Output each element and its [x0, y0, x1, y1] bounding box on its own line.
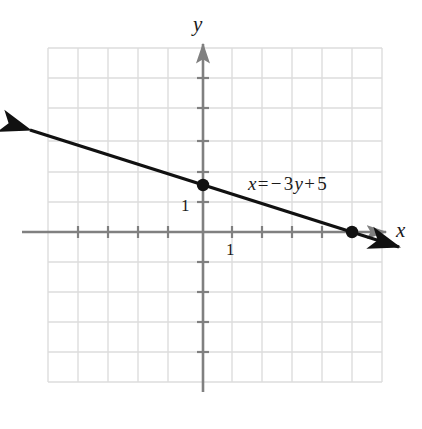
y-axis-label: y	[193, 12, 202, 37]
point-y-intercept	[197, 179, 209, 191]
equation-coefficient: 3	[283, 173, 295, 194]
x-axis-tick-label: 1	[226, 240, 235, 260]
plotted-line	[30, 130, 399, 247]
equation-constant: 5	[316, 173, 328, 194]
equation-lhs-variable: x	[248, 173, 257, 194]
grid-lines	[48, 48, 382, 382]
equation-plus-sign: +	[303, 173, 316, 194]
coordinate-plane	[0, 0, 422, 429]
equation-equals: =	[257, 173, 270, 194]
equation-label: x=−3y+5	[248, 173, 328, 195]
graph-figure: y x 1 1 x=−3y+5	[0, 0, 422, 429]
equation-minus-sign: −	[270, 173, 283, 194]
y-axis-tick-label: 1	[181, 196, 190, 216]
y-axis	[197, 44, 209, 392]
x-axis-label: x	[396, 218, 405, 243]
point-x-intercept	[346, 226, 358, 238]
equation-rhs-variable: y	[295, 173, 304, 194]
